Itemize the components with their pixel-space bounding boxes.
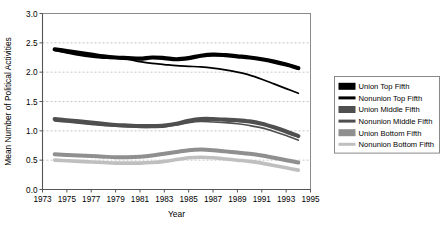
x-tick-label: 1989: [228, 195, 247, 204]
y-tick-label: 1.0: [26, 127, 38, 136]
legend-item-0[interactable]: Union Top Fifth: [339, 82, 410, 91]
y-tick-label: 0.5: [26, 156, 38, 165]
x-tick-label: 1973: [33, 195, 52, 204]
legend-swatch: [339, 143, 356, 146]
x-axis-title: Year: [168, 209, 185, 219]
legend-swatch: [339, 83, 356, 90]
y-axis-title: Mean Number of Political Activities: [3, 37, 13, 165]
x-tick-label: 1987: [204, 195, 223, 204]
y-tick-label: 0.0: [26, 186, 38, 195]
legend-item-2[interactable]: Union Middle Fifth: [339, 105, 420, 114]
x-tick-label: 1991: [253, 195, 272, 204]
legend-label: Nonunion Middle Fifth: [359, 117, 433, 126]
legend-label: Union Bottom Fifth: [359, 129, 422, 138]
x-tick-label: 1995: [301, 195, 320, 204]
x-tick-label: 1981: [131, 195, 150, 204]
legend-swatch: [339, 106, 356, 113]
y-tick-label: 1.5: [26, 98, 38, 107]
x-tick-label: 1993: [277, 195, 296, 204]
x-tick-label: 1979: [106, 195, 125, 204]
legend-swatch: [339, 96, 356, 99]
y-tick-label: 2.0: [26, 68, 38, 77]
legend-swatch: [339, 129, 356, 136]
political-activities-line-chart: 0.00.51.01.52.02.53.0 197319751977197919…: [0, 0, 445, 237]
y-tick-label: 2.5: [26, 39, 38, 48]
legend-label: Nonunion Top Fifth: [359, 94, 423, 103]
y-tick-label: 3.0: [26, 10, 38, 19]
legend-swatch: [339, 120, 356, 123]
legend-item-4[interactable]: Union Bottom Fifth: [339, 129, 422, 138]
legend-label: Union Top Fifth: [359, 82, 410, 91]
x-tick-label: 1983: [155, 195, 174, 204]
x-tick-label: 1977: [82, 195, 101, 204]
legend-label: Union Middle Fifth: [359, 105, 420, 114]
x-tick-label: 1975: [58, 195, 77, 204]
x-tick-label: 1985: [180, 195, 199, 204]
legend-label: Nonunion Bottom Fifth: [359, 140, 435, 149]
chart-legend: Union Top FifthNonunion Top FifthUnion M…: [335, 77, 440, 154]
